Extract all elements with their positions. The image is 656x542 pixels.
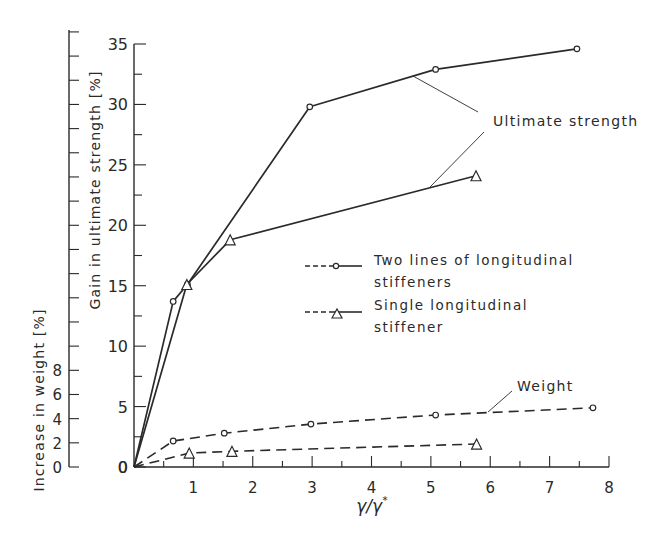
y-tick-label: 35 xyxy=(108,35,128,54)
x-axis-label-sup: * xyxy=(382,494,388,507)
triangle-marker-icon xyxy=(471,171,481,181)
legend: Two lines of longitudinal stiffeners Sin… xyxy=(305,252,574,335)
legend-circle-marker-icon xyxy=(333,263,338,268)
x-axis-label-main: γ/γ xyxy=(356,496,383,516)
circle-marker-icon xyxy=(590,405,596,411)
x-axis-label: γ/γ* xyxy=(356,494,388,516)
y-axis-label: Gain in ultimate strength [%] xyxy=(87,70,103,309)
y-tick-label: 30 xyxy=(108,95,128,114)
circle-marker-icon xyxy=(574,46,580,52)
y-secondary-tick-label: 6 xyxy=(52,386,62,404)
circle-marker-icon xyxy=(307,104,313,110)
y-secondary-tick-label: 0 xyxy=(52,459,62,477)
chart: 0510152025303502468123456780 Increase in… xyxy=(0,0,656,542)
y-tick-label: 5 xyxy=(118,398,128,417)
circle-marker-icon xyxy=(170,438,176,444)
y-tick-label: 15 xyxy=(108,277,128,296)
legend-triangle-marker-icon xyxy=(332,309,342,318)
legend-item-two-lines: Two lines of longitudinal stiffeners xyxy=(305,252,574,290)
y-axis-secondary-label: Increase in weight [%] xyxy=(31,308,47,491)
y-tick-label: 20 xyxy=(108,216,128,235)
annotation-weight: Weight xyxy=(488,378,574,412)
x-tick-label: 2 xyxy=(248,479,258,497)
series-line-2 xyxy=(134,408,593,467)
triangle-marker-icon xyxy=(184,448,194,458)
annotation-weight-label: Weight xyxy=(517,378,574,394)
legend-label-two-lines-2: stiffeners xyxy=(374,274,452,290)
x-tick-label: 6 xyxy=(485,479,495,497)
annotation-ultimate-strength-label: Ultimate strength xyxy=(493,113,638,129)
legend-label-single-1: Single longitudinal xyxy=(374,297,528,313)
annotation-ultimate-strength: Ultimate strength xyxy=(413,76,638,187)
y-tick-label: 25 xyxy=(108,156,128,175)
legend-label-single-2: stiffener xyxy=(374,319,444,335)
x-tick-label: 7 xyxy=(545,479,555,497)
x-tick-label: 1 xyxy=(189,479,199,497)
y-secondary-tick-label: 4 xyxy=(52,411,62,429)
y-tick-label: 10 xyxy=(108,337,128,356)
y-secondary-tick-label: 2 xyxy=(52,435,62,453)
circle-marker-icon xyxy=(308,421,314,427)
circle-marker-icon xyxy=(433,67,439,73)
y-secondary-tick-label: 8 xyxy=(52,362,62,380)
x-tick-label: 4 xyxy=(367,479,377,497)
legend-item-single: Single longitudinal stiffener xyxy=(305,297,528,335)
x-tick-label: 3 xyxy=(307,479,317,497)
circle-marker-icon xyxy=(433,412,439,418)
circle-marker-icon xyxy=(170,299,176,305)
x-tick-label: 8 xyxy=(604,479,614,497)
x-tick-label: 5 xyxy=(426,479,436,497)
triangle-marker-icon xyxy=(225,235,235,245)
legend-label-two-lines-1: Two lines of longitudinal xyxy=(373,252,574,268)
origin-label: 0 xyxy=(118,458,128,477)
circle-marker-icon xyxy=(221,430,227,436)
